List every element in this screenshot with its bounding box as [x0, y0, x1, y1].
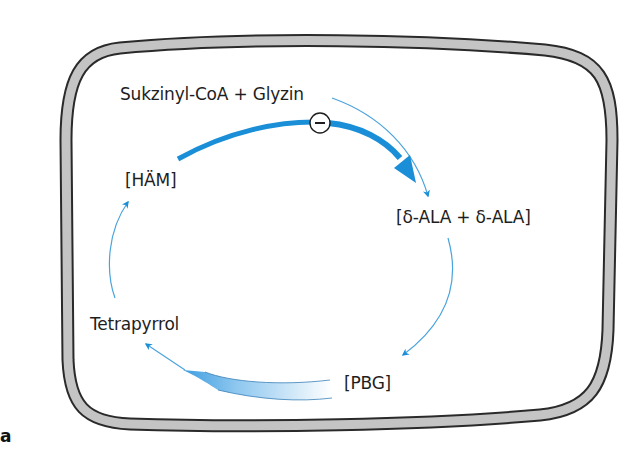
label-ala: [δ-ALA + δ-ALA] — [396, 207, 531, 227]
arrow-ala-to-pbg — [403, 238, 453, 355]
label-heme: [HÄM] — [125, 170, 176, 190]
inhibition-icon — [310, 113, 330, 133]
diagram-canvas — [0, 0, 641, 469]
heme-synthesis-diagram: Sukzinyl-CoA + Glyzin [HÄM] [δ-ALA + δ-A… — [0, 0, 641, 469]
panel-label: a — [0, 426, 11, 446]
label-substrates: Sukzinyl-CoA + Glyzin — [120, 84, 304, 104]
label-tetrapyrrol: Tetrapyrrol — [90, 314, 179, 334]
label-pbg: [PBG] — [344, 373, 391, 393]
feedback-arrow — [178, 122, 416, 183]
arrow-pbg-to-tetrapyrrol — [146, 344, 332, 400]
arrow-tetrapyrrol-to-heme — [109, 202, 128, 298]
